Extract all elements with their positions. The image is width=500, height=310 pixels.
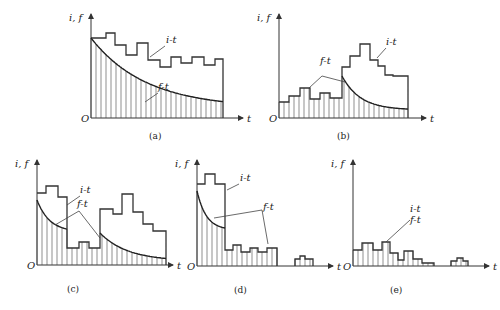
x-axis-label: t [430, 113, 435, 124]
f-t-curve [100, 233, 166, 259]
y-axis-label: i, f [331, 158, 347, 169]
i-t-label: i-t [166, 34, 178, 45]
panel-d: i, ftO(d)i-tf-t [175, 158, 342, 295]
x-axis-label: t [337, 261, 342, 272]
y-axis-label: i, f [175, 158, 191, 169]
leader-line [150, 46, 165, 57]
leader-line [386, 220, 410, 242]
f-t-label: f-t [319, 55, 332, 66]
panel-c: i, ftO(c)i-tf-t [15, 158, 182, 294]
i-t-line [353, 242, 434, 266]
y-axis-label: i, f [69, 12, 85, 23]
panel-caption: (d) [234, 285, 247, 295]
panel-caption: (e) [390, 285, 402, 295]
leader-line [227, 184, 239, 190]
origin-label: O [343, 261, 351, 272]
i-t-label: i-t [410, 203, 422, 214]
i-t-label: i-t [240, 172, 252, 183]
f-t-curve [342, 76, 408, 109]
f-t-label: f-t [157, 81, 170, 92]
figure-diagram: i, ftO(a)i-tf-ti, ftO(b)i-tf-ti, ftO(c)i… [0, 0, 500, 310]
i-t-label: i-t [80, 184, 92, 195]
f-t-label: f-t [262, 201, 275, 212]
origin-label: O [27, 260, 35, 271]
leader-line [309, 76, 345, 88]
origin-label: O [187, 261, 195, 272]
panel-a: i, ftO(a)i-tf-t [69, 12, 252, 141]
panel-b: i, ftO(b)i-tf-t [257, 12, 435, 141]
panel-caption: (b) [337, 131, 350, 141]
x-axis-label: t [493, 261, 498, 272]
y-axis-label: i, f [257, 12, 273, 23]
panel-caption: (a) [149, 131, 161, 141]
f-t-label: f-t [76, 198, 89, 209]
i-t-label: i-t [386, 36, 398, 47]
i-t-bump [451, 258, 468, 266]
origin-label: O [81, 113, 89, 124]
x-axis-label: t [247, 113, 252, 124]
f-t-label: f-t [409, 214, 422, 225]
panel-e: i, ftO(e)i-tf-t [331, 158, 498, 295]
x-axis-label: t [177, 260, 182, 271]
origin-label: O [269, 113, 277, 124]
f-t-curve [197, 191, 225, 228]
panel-caption: (c) [67, 284, 79, 294]
y-axis-label: i, f [15, 158, 31, 169]
leader-line [377, 48, 386, 58]
